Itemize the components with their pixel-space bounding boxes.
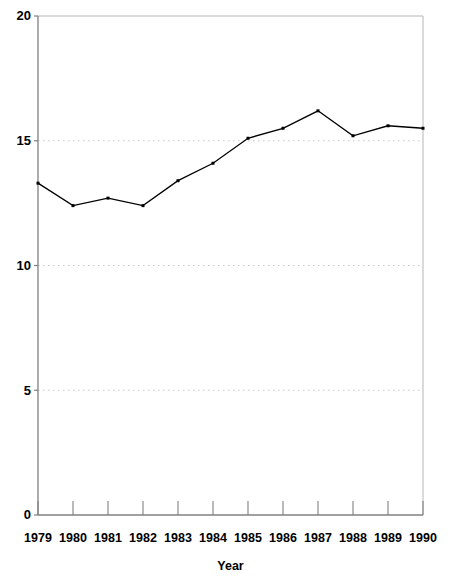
- x-axis-title: Year: [217, 559, 244, 573]
- data-point-1979: [37, 182, 40, 185]
- data-point-1987: [317, 109, 320, 112]
- y-tick-label-15: 15: [17, 133, 31, 148]
- data-point-1981: [107, 197, 110, 200]
- data-point-1988: [352, 134, 355, 137]
- data-point-1980: [72, 204, 75, 207]
- y-tick-label-20: 20: [17, 8, 31, 23]
- data-point-1982: [142, 204, 145, 207]
- x-tick-label-1982: 1982: [129, 531, 157, 545]
- x-tick-label-1984: 1984: [199, 531, 227, 545]
- data-point-1983: [177, 179, 180, 182]
- chart-background: [0, 0, 453, 586]
- x-tick-label-1989: 1989: [374, 531, 402, 545]
- y-tick-label-0: 0: [24, 507, 31, 522]
- x-tick-label-1981: 1981: [94, 531, 122, 545]
- x-tick-label-1990: 1990: [409, 531, 437, 545]
- chart-canvas: 20 15 10 5 0 197919801981198219831984198…: [0, 0, 453, 586]
- x-tick-label-1988: 1988: [339, 531, 367, 545]
- data-point-1984: [212, 162, 215, 165]
- x-tick-label-1979: 1979: [24, 531, 52, 545]
- data-point-1989: [387, 124, 390, 127]
- y-tick-label-10: 10: [17, 258, 31, 273]
- data-point-1985: [247, 137, 250, 140]
- data-point-1990: [422, 127, 425, 130]
- x-tick-label-1987: 1987: [304, 531, 332, 545]
- x-tick-label-1985: 1985: [234, 531, 262, 545]
- x-tick-label-1983: 1983: [164, 531, 192, 545]
- data-point-1986: [282, 127, 285, 130]
- x-tick-label-1980: 1980: [59, 531, 87, 545]
- y-tick-label-5: 5: [24, 383, 31, 398]
- x-tick-label-1986: 1986: [269, 531, 297, 545]
- line-chart: 20 15 10 5 0 197919801981198219831984198…: [0, 0, 453, 586]
